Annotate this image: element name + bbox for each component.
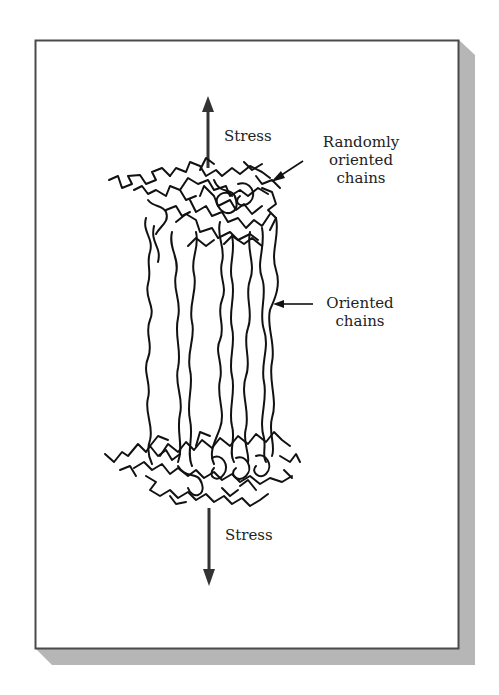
stress-bottom-label: Stress [225,526,273,544]
figure: Stress Randomly oriented chains Oriented… [0,0,499,695]
random-label-line3: chains [305,169,417,187]
diagram-canvas [0,0,499,695]
randomly-oriented-chains-label: Randomly oriented chains [305,133,417,187]
stress-top-label: Stress [224,127,272,145]
random-label-line1: Randomly [305,133,417,151]
oriented-label-line2: chains [312,312,408,330]
oriented-chains-label: Oriented chains [312,294,408,330]
oriented-label-line1: Oriented [312,294,408,312]
random-label-line2: oriented [305,151,417,169]
